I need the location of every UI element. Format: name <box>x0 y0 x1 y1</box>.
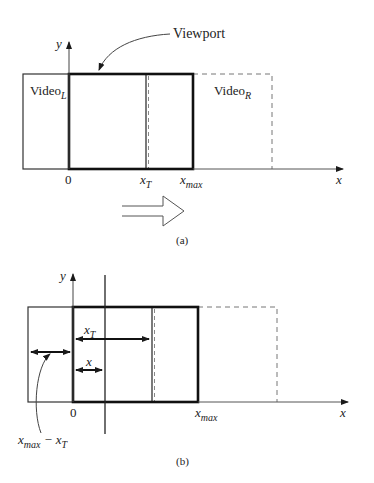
dim-diff-label: xmax − xT <box>17 432 69 450</box>
x-axis-label: x <box>335 172 342 187</box>
y-axis-label-b: y <box>58 268 66 283</box>
tick-zero-b: 0 <box>70 405 77 420</box>
dim-diff-callout <box>36 354 50 433</box>
tick-xt: xT <box>139 172 153 190</box>
dim-x-label: x <box>85 354 92 369</box>
figure-b: y xT x 0 xmax x xmax − xT (b) <box>17 268 348 468</box>
y-axis-label: y <box>54 36 62 51</box>
caption-b: (b) <box>176 455 189 468</box>
caption-a: (a) <box>176 234 189 247</box>
tick-xmax-b: xmax <box>194 405 218 423</box>
video-right-frame-b <box>198 307 277 402</box>
dim-xt-label: xT <box>83 322 97 340</box>
figure-a: y Viewport VideoL VideoR 0 xT xmax x (a) <box>23 26 343 247</box>
viewport-label: Viewport <box>173 26 225 41</box>
tick-xmax: xmax <box>179 172 203 190</box>
tick-zero: 0 <box>65 172 72 187</box>
viewport-frame <box>69 74 193 169</box>
viewport-callout-arrow <box>99 34 170 70</box>
hollow-right-arrow-icon <box>122 196 184 226</box>
video-left-frame-b <box>28 307 73 402</box>
x-axis-label-b: x <box>339 405 346 420</box>
video-right-label: VideoR <box>214 83 251 101</box>
video-left-label: VideoL <box>30 83 67 101</box>
